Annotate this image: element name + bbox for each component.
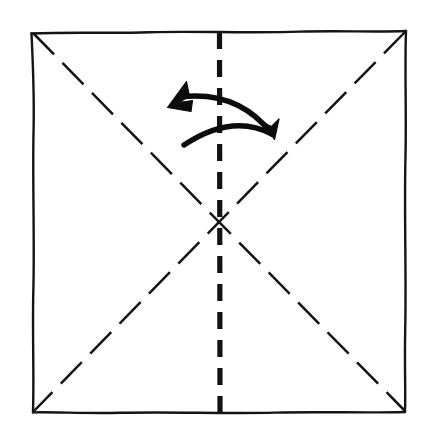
origami-diagram (0, 0, 428, 429)
sheet-edge-right (405, 31, 406, 412)
sheet-edge-bottom (33, 412, 405, 413)
origami-figure-canvas (0, 0, 428, 429)
